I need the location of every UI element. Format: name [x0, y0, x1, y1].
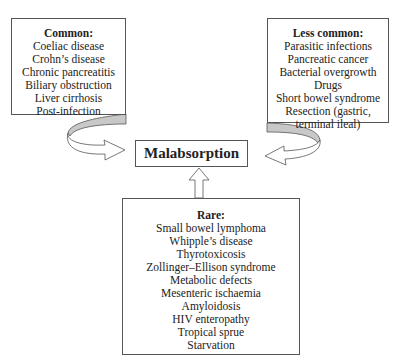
common-item: Crohn’s disease: [12, 53, 125, 66]
common-causes-box: Common: Coeliac disease Crohn’s disease …: [11, 18, 126, 115]
less-common-item: Pancreatic cancer: [268, 53, 388, 66]
common-item: Biliary obstruction: [12, 79, 125, 92]
less-common-item: Resection (gastric,: [268, 105, 388, 118]
rare-item: Zollinger–Ellison syndrome: [123, 261, 299, 274]
rare-item: HIV enteropathy: [123, 313, 299, 326]
malabsorption-label: Malabsorption: [144, 145, 239, 161]
common-item: Post-infection: [12, 105, 125, 118]
rare-item: Small bowel lymphoma: [123, 222, 299, 235]
less-common-title: Less common:: [268, 27, 388, 40]
rare-item: Starvation: [123, 339, 299, 352]
less-common-item: Parasitic infections: [268, 40, 388, 53]
common-item: Coeliac disease: [12, 40, 125, 53]
rare-item: Mesenteric ischaemia: [123, 287, 299, 300]
less-common-item: Short bowel syndrome: [268, 92, 388, 105]
rare-item: Tropical sprue: [123, 326, 299, 339]
common-title: Common:: [12, 27, 125, 40]
rare-item: Metabolic defects: [123, 274, 299, 287]
less-common-item: terminal ileal): [268, 118, 388, 131]
less-common-item: Bacterial overgrowth: [268, 66, 388, 79]
less-common-item: Drugs: [268, 79, 388, 92]
rare-title: Rare:: [123, 209, 299, 222]
rare-causes-box: Rare: Small bowel lymphoma Whipple’s dis…: [122, 198, 300, 355]
rare-item: Whipple’s disease: [123, 235, 299, 248]
malabsorption-box: Malabsorption: [135, 140, 248, 167]
up-arrow-icon: [189, 168, 209, 198]
rare-item: Amyloidosis: [123, 300, 299, 313]
less-common-causes-box: Less common: Parasitic infections Pancre…: [267, 18, 389, 123]
common-item: Chronic pancreatitis: [12, 66, 125, 79]
common-item: Liver cirrhosis: [12, 92, 125, 105]
curved-arrow-left-icon: [67, 114, 126, 160]
rare-item: Thyrotoxicosis: [123, 248, 299, 261]
